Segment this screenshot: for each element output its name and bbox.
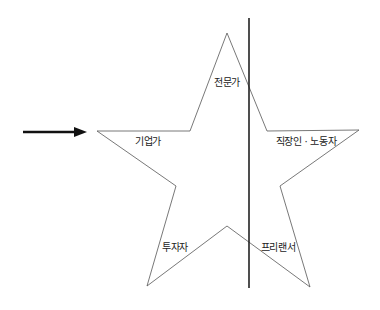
arrow-right-icon — [23, 127, 87, 137]
diagram-svg — [0, 0, 380, 310]
label-expert: 전문가 — [214, 78, 240, 88]
star-shape — [97, 33, 359, 287]
label-entrepreneur: 기업가 — [135, 137, 161, 147]
label-investor: 투자자 — [162, 243, 188, 253]
label-freelancer: 프리랜서 — [261, 243, 296, 253]
label-employee-worker: 직장인 · 노동자 — [276, 137, 337, 147]
star-diagram: 전문가 기업가 직장인 · 노동자 투자자 프리랜서 — [0, 0, 380, 310]
